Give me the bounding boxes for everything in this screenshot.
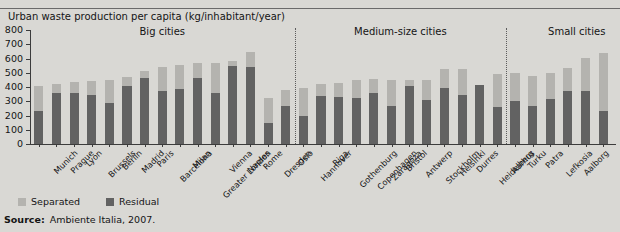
bar-naples[interactable] xyxy=(228,61,237,144)
x-tick-mark xyxy=(39,144,40,147)
group-title: Big cities xyxy=(92,26,232,37)
source-note: Source:Ambiente Italia, 2007. xyxy=(4,214,155,225)
bar-segment-separated xyxy=(193,63,202,79)
x-tick-mark xyxy=(374,144,375,147)
bar-segment-residual xyxy=(387,106,396,144)
bar-riga[interactable] xyxy=(316,84,325,144)
bar-segment-separated xyxy=(599,53,608,111)
source-value: Ambiente Italia, 2007. xyxy=(50,214,156,225)
bar-segment-residual xyxy=(510,101,519,144)
group-title: Small cities xyxy=(507,26,620,37)
bar-segment-residual xyxy=(228,66,237,144)
bar-segment-separated xyxy=(316,84,325,96)
bar-segment-separated xyxy=(334,83,343,97)
x-tick-mark xyxy=(268,144,269,147)
legend-item-residual[interactable]: Residual xyxy=(106,196,159,207)
y-tick-mark xyxy=(26,116,30,117)
bar-greater-london[interactable] xyxy=(193,63,202,144)
bar-turku[interactable] xyxy=(510,73,519,144)
bar-vienna[interactable] xyxy=(211,63,220,145)
bar-segment-separated xyxy=(440,69,449,88)
y-tick-label: 300 xyxy=(0,95,23,106)
bar-patra[interactable] xyxy=(528,76,537,144)
bar-segment-residual xyxy=(52,93,61,144)
bar-lyon[interactable] xyxy=(70,82,79,144)
bar-segment-residual xyxy=(246,67,255,144)
bar-segment-separated xyxy=(369,79,378,93)
x-tick-mark xyxy=(409,144,410,147)
bar-segment-separated xyxy=(405,80,414,86)
bar-munich[interactable] xyxy=(34,86,43,144)
bar-oslo[interactable] xyxy=(281,90,290,144)
bar-prague[interactable] xyxy=(52,84,61,144)
bar-paris[interactable] xyxy=(140,71,149,144)
bar-milan[interactable] xyxy=(175,65,184,145)
legend-item-separated[interactable]: Separated xyxy=(18,196,80,207)
bar-lefkosia[interactable] xyxy=(546,73,555,144)
bar-helsinki[interactable] xyxy=(440,69,449,144)
bar-segment-separated xyxy=(34,86,43,110)
bar-segment-separated xyxy=(546,73,555,99)
bar-segment-residual xyxy=(70,93,79,144)
x-tick-mark xyxy=(92,144,93,147)
x-tick-mark xyxy=(250,144,251,147)
bar-barcelona[interactable] xyxy=(158,67,167,144)
bar-dresden[interactable] xyxy=(264,98,273,144)
bar-segment-residual xyxy=(211,93,220,144)
bar-copenhagen[interactable] xyxy=(352,80,361,144)
bar-x2[interactable] xyxy=(599,53,608,144)
bar-segment-separated xyxy=(528,76,537,107)
bar-segment-separated xyxy=(581,58,590,91)
bar-zaragoza[interactable] xyxy=(369,79,378,144)
bar-heidelberg[interactable] xyxy=(475,85,484,144)
x-tick-mark xyxy=(497,144,498,147)
legend-label-separated: Separated xyxy=(31,196,80,207)
x-tick-mark xyxy=(339,144,340,147)
bar-x1[interactable] xyxy=(581,58,590,144)
y-tick-label: 800 xyxy=(0,24,23,35)
bar-segment-residual xyxy=(140,78,149,144)
bar-rome[interactable] xyxy=(246,52,255,144)
bar-bristol[interactable] xyxy=(387,80,396,144)
bar-segment-residual xyxy=(316,96,325,144)
bar-durres[interactable] xyxy=(458,69,467,144)
bar-segment-separated xyxy=(175,65,184,89)
bar-aalborg[interactable] xyxy=(563,68,572,144)
bar-hannover[interactable] xyxy=(299,88,308,144)
bar-madrid[interactable] xyxy=(122,77,131,144)
bar-segment-residual xyxy=(563,91,572,144)
bar-segment-residual xyxy=(87,95,96,144)
x-tick-mark xyxy=(162,144,163,147)
x-tick-mark xyxy=(286,144,287,147)
bar-segment-residual xyxy=(334,97,343,144)
bar-brussels[interactable] xyxy=(87,81,96,144)
bar-segment-separated xyxy=(352,80,361,98)
bar-segment-separated xyxy=(211,63,220,93)
top-divider-rule xyxy=(0,8,620,9)
bar-segment-residual xyxy=(281,106,290,144)
bar-berlin[interactable] xyxy=(105,80,114,144)
y-tick-mark xyxy=(26,30,30,31)
y-tick-label: 700 xyxy=(0,38,23,49)
bar-segment-separated xyxy=(510,73,519,100)
bar-segment-residual xyxy=(405,86,414,144)
x-tick-mark xyxy=(74,144,75,147)
bar-stockholm[interactable] xyxy=(422,80,431,144)
bar-segment-separated xyxy=(246,52,255,66)
bar-aarhus[interactable] xyxy=(493,74,502,144)
bar-segment-residual xyxy=(369,93,378,144)
bar-gothenburg[interactable] xyxy=(334,83,343,144)
bar-segment-separated xyxy=(458,69,467,95)
bar-segment-separated xyxy=(158,67,167,91)
bar-segment-residual xyxy=(352,98,361,144)
x-tick-mark xyxy=(233,144,234,147)
y-tick-mark xyxy=(26,44,30,45)
x-tick-mark xyxy=(321,144,322,147)
bar-antwerp[interactable] xyxy=(405,80,414,144)
y-tick-label: 100 xyxy=(0,124,23,135)
x-tick-mark xyxy=(515,144,516,147)
y-tick-mark xyxy=(26,101,30,102)
x-tick-mark xyxy=(533,144,534,147)
bar-segment-separated xyxy=(563,68,572,92)
bar-segment-residual xyxy=(105,103,114,144)
